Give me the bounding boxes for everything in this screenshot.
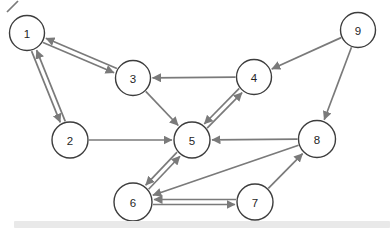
graph-node-4: 4	[237, 60, 272, 95]
node-label-3: 3	[130, 73, 136, 85]
node-label-2: 2	[67, 135, 73, 147]
edge-9-8	[324, 47, 351, 119]
graph-node-5: 5	[174, 122, 210, 158]
node-label-5: 5	[189, 135, 195, 147]
graph-node-2: 2	[52, 122, 88, 158]
diagram-stage: 123456789	[0, 0, 390, 229]
edge-5-4	[207, 93, 242, 129]
edge-6-5	[149, 156, 180, 189]
graph-node-6: 6	[114, 183, 152, 221]
edge-4-5	[204, 88, 239, 124]
edge-3-5	[146, 91, 178, 125]
edge-8-5	[212, 139, 298, 140]
edge-1-2	[32, 51, 61, 122]
node-label-1: 1	[24, 28, 30, 40]
edge-4-3	[152, 77, 235, 78]
node-label-7: 7	[252, 197, 258, 209]
graph-canvas: 123456789	[0, 0, 390, 229]
edge-5-6	[146, 152, 177, 185]
node-label-9: 9	[355, 25, 361, 37]
node-label-4: 4	[251, 72, 258, 84]
horizontal-scrollbar[interactable]	[14, 221, 390, 228]
edge-9-4	[272, 38, 341, 69]
graph-node-1: 1	[10, 16, 45, 51]
artifact-stroke	[7, 1, 18, 12]
graph-node-9: 9	[341, 13, 376, 48]
graph-node-8: 8	[299, 121, 336, 158]
edge-7-8	[268, 154, 302, 189]
node-label-6: 6	[130, 197, 136, 209]
node-label-8: 8	[314, 134, 320, 146]
edge-2-1	[37, 50, 66, 121]
edge-3-1	[46, 38, 117, 68]
graph-node-7: 7	[237, 184, 273, 220]
graph-node-3: 3	[116, 61, 151, 96]
edge-8-6	[153, 145, 299, 195]
edge-1-3	[43, 43, 114, 73]
